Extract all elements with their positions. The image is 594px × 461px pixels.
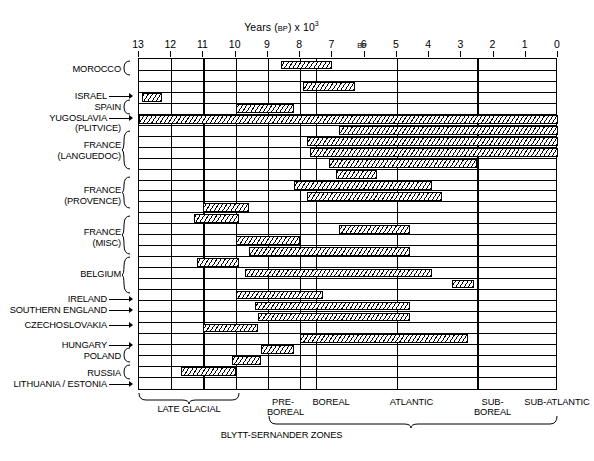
x-tick-mark-12 <box>170 51 171 57</box>
label-france-misc-sub: (MISC) <box>92 238 121 248</box>
label-southern-england-pointer <box>109 310 129 311</box>
range-bar-lithuania-estonia-r29 <box>181 367 236 376</box>
x-tick-mark-11 <box>202 51 203 57</box>
bp-axis-marker: BP <box>351 41 373 50</box>
x-tick-mark-2 <box>493 51 494 57</box>
label-france-languedoc-sub: (LANGUEDOC) <box>58 151 121 161</box>
x-tick-label-9: 9 <box>256 38 278 50</box>
x-tick-label-4: 4 <box>417 38 439 50</box>
label-morocco: MOROCCO <box>72 64 121 74</box>
brace-france-languedoc <box>121 130 131 170</box>
x-tick-mark-0 <box>557 51 558 57</box>
x-tick-label-12: 12 <box>159 38 181 50</box>
brace-morocco <box>121 60 131 76</box>
label-hungary-pointer <box>109 345 129 346</box>
x-tick-label-7: 7 <box>320 38 342 50</box>
axis-title-multiplier: x 10 <box>295 21 315 33</box>
label-ireland-arrowhead <box>129 296 133 302</box>
x-tick-mark-6 <box>364 51 365 57</box>
range-bar-france-provence-r12 <box>294 181 433 190</box>
label-israel-pointer <box>109 96 129 97</box>
x-tick-mark-1 <box>525 51 526 57</box>
x-tick-mark-9 <box>267 51 268 57</box>
range-bar-hungary-r25 <box>203 324 258 333</box>
label-czechoslovakia: CZECHOSLOVAKIA <box>25 320 107 330</box>
label-ireland-pointer <box>109 299 129 300</box>
zone-pre: PRE- <box>267 397 299 407</box>
label-poland: POLAND <box>84 351 121 361</box>
range-bar-poland-r27 <box>261 345 293 354</box>
range-bar-france-languedoc-r10 <box>329 159 477 168</box>
zone-atlantic: ATLANTIC <box>363 397 460 407</box>
x-tick-mark-10 <box>235 51 236 57</box>
x-tick-label-0: 0 <box>546 38 568 50</box>
rowline-26 <box>139 344 556 345</box>
label-yugoslavia-pointer <box>109 118 129 119</box>
range-bar-poland-r26 <box>300 334 468 343</box>
label-yugoslavia-arrowhead <box>129 115 133 121</box>
label-czechoslovakia-pointer <box>109 325 129 326</box>
range-bar-france-misc-r14 <box>203 203 248 212</box>
range-bar-belgium-r20 <box>245 269 432 278</box>
zone-group-label: BLYTT-SERNANDER ZONES <box>0 430 563 440</box>
label-lithuania-estonia: LITHUANIA / ESTONIA <box>13 379 107 389</box>
range-bar-france-provence-r11 <box>336 170 378 179</box>
label-lithuania-estonia-pointer <box>109 384 129 385</box>
label-southern-england-arrowhead <box>129 307 133 313</box>
x-tick-label-3: 3 <box>449 38 471 50</box>
label-southern-england: SOUTHERN ENGLAND <box>10 305 107 315</box>
label-hungary: HUNGARY <box>62 340 107 350</box>
x-tick-mark-4 <box>428 51 429 57</box>
range-bar-belgium-r19 <box>197 258 239 267</box>
x-tick-mark-7 <box>331 51 332 57</box>
range-bar-ireland-r21 <box>452 280 475 289</box>
rowline-16 <box>139 234 556 235</box>
axis-title-years: Years <box>244 21 271 33</box>
label-israel: ISRAEL <box>75 91 107 101</box>
x-tick-label-2: 2 <box>482 38 504 50</box>
range-bar-southern-england-r22 <box>236 291 323 300</box>
rowline-3 <box>139 92 556 93</box>
x-tick-mark-5 <box>396 51 397 57</box>
x-tick-label-5: 5 <box>385 38 407 50</box>
brace-poland <box>121 347 131 363</box>
range-bar-morocco-r1 <box>281 61 333 70</box>
label-france-provence: FRANCE <box>84 185 121 195</box>
rowline-27 <box>139 355 556 356</box>
label-france-misc: FRANCE <box>84 227 121 237</box>
range-bar-spain-r5 <box>236 104 294 113</box>
brace-blytt-sernander <box>268 415 558 428</box>
x-tick-mark-8 <box>299 51 300 57</box>
x-tick-label-1: 1 <box>514 38 536 50</box>
x-tick-label-10: 10 <box>224 38 246 50</box>
x-tick-label-8: 8 <box>288 38 310 50</box>
label-yugoslavia-sub: (PLITVICE) <box>75 123 121 133</box>
label-belgium: BELGIUM <box>80 269 121 279</box>
axis-title-bp: BP <box>278 24 288 33</box>
range-bar-belgium-r18 <box>249 247 410 256</box>
range-bar-israel-r3 <box>303 82 355 91</box>
range-bar-czechoslovakia-r24 <box>258 313 409 322</box>
range-bar-france-languedoc-r7 <box>339 126 558 135</box>
rowline-4 <box>139 103 556 104</box>
range-bar-france-misc-r16 <box>339 225 410 234</box>
range-bar-france-languedoc-r9 <box>310 148 558 157</box>
label-yugoslavia: YUGOSLAVIA <box>49 113 107 123</box>
brace-russia <box>121 364 131 380</box>
label-france-provence-sub: (PROVENCE) <box>64 196 121 206</box>
x-tick-mark-13 <box>138 51 139 57</box>
zone-late-glacial: LATE GLACIAL <box>138 404 240 414</box>
brace-late-glacial <box>138 392 240 404</box>
range-bar-france-languedoc-r8 <box>307 137 558 146</box>
range-bar-belgium-r17 <box>236 236 300 245</box>
brace-france-provence <box>121 176 131 209</box>
label-spain: SPAIN <box>95 102 121 112</box>
label-france-languedoc: FRANCE <box>84 140 121 150</box>
rowline-20 <box>139 278 556 279</box>
range-bar-spain-r4 <box>142 93 161 102</box>
label-ireland: IRELAND <box>68 294 107 304</box>
range-bar-czechoslovakia-r23 <box>255 302 410 311</box>
range-bar-france-provence-r13 <box>307 192 442 201</box>
range-bar-yugoslavia-plitvice-r6 <box>139 115 558 124</box>
